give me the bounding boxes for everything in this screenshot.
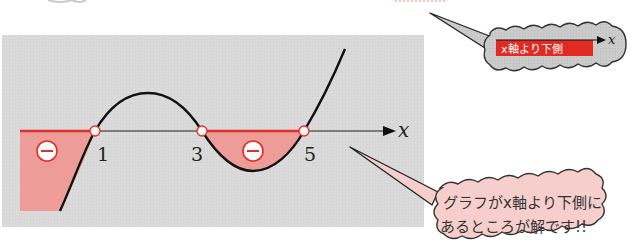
- legend-text: x軸より下側: [501, 42, 563, 56]
- partial-glyph: [48, 0, 86, 2]
- root-marker-3: [197, 126, 207, 136]
- minus-sign-icon: [243, 141, 263, 161]
- legend-bubble-tail: [430, 13, 492, 50]
- x-axis-label: x: [398, 118, 409, 142]
- minus-sign-icon: [37, 141, 57, 161]
- root-label-5: 5: [304, 143, 316, 165]
- root-marker-5: [299, 126, 309, 136]
- root-marker-1: [90, 126, 100, 136]
- legend-axis-label: x: [608, 32, 616, 47]
- diagram-canvas: 1 3 5 x グラフがx軸より下側に あるところが解です!! x x軸より下側: [0, 0, 641, 249]
- root-label-1: 1: [97, 143, 109, 165]
- callout-line-2: あるところが解です!!: [440, 218, 587, 236]
- root-label-3: 3: [191, 143, 203, 165]
- callout-line-1: グラフがx軸より下側に: [443, 194, 602, 212]
